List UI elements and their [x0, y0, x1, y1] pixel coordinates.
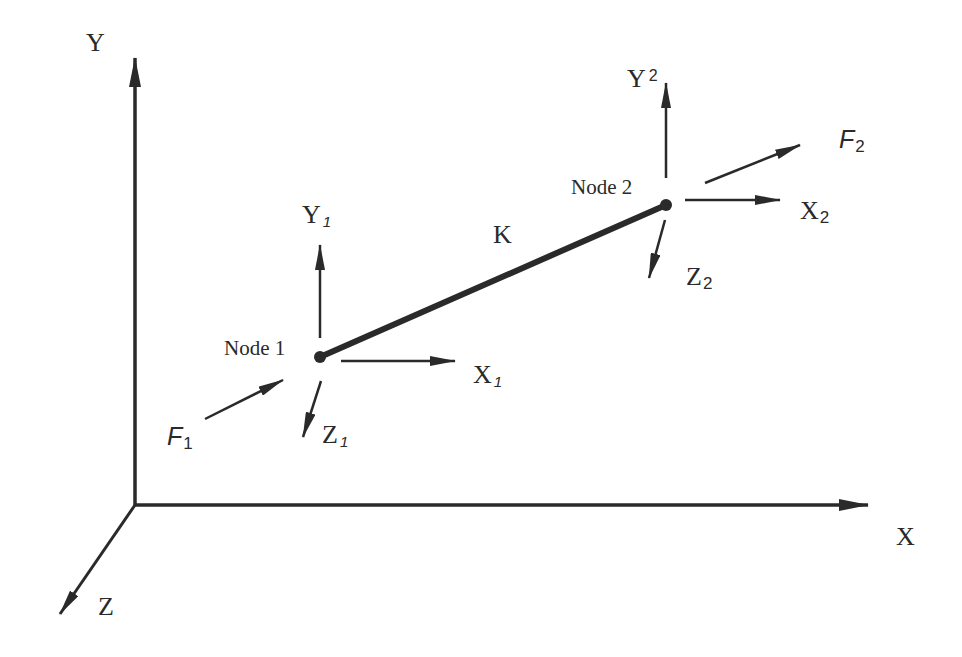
- node1-label: Node 1: [224, 338, 285, 359]
- global-z-label: Z: [98, 594, 114, 620]
- node1-z-arrow: [303, 381, 321, 437]
- node1-z-label: Z1: [322, 422, 348, 448]
- node1-force-arrow: [205, 380, 283, 419]
- element-k-label: K: [493, 222, 512, 248]
- diagram-canvas: [0, 0, 962, 657]
- node2-y-label: Y2: [627, 66, 658, 92]
- global-y-label: Y: [86, 30, 105, 56]
- node1-y-label: Y1: [302, 202, 331, 228]
- node2-z-label: Z2: [686, 264, 712, 290]
- global-x-label: X: [896, 524, 915, 550]
- node1-x-label: X1: [473, 362, 502, 388]
- node1-point: [314, 351, 326, 363]
- node2-label: Node 2: [571, 177, 632, 198]
- node2-point: [660, 199, 672, 211]
- node1-force-label: F1: [167, 424, 193, 450]
- node2-z-arrow: [649, 220, 665, 278]
- node2-force-label: F2: [839, 127, 865, 153]
- node2-force-arrow: [705, 145, 800, 183]
- node2-x-label: X2: [800, 198, 829, 224]
